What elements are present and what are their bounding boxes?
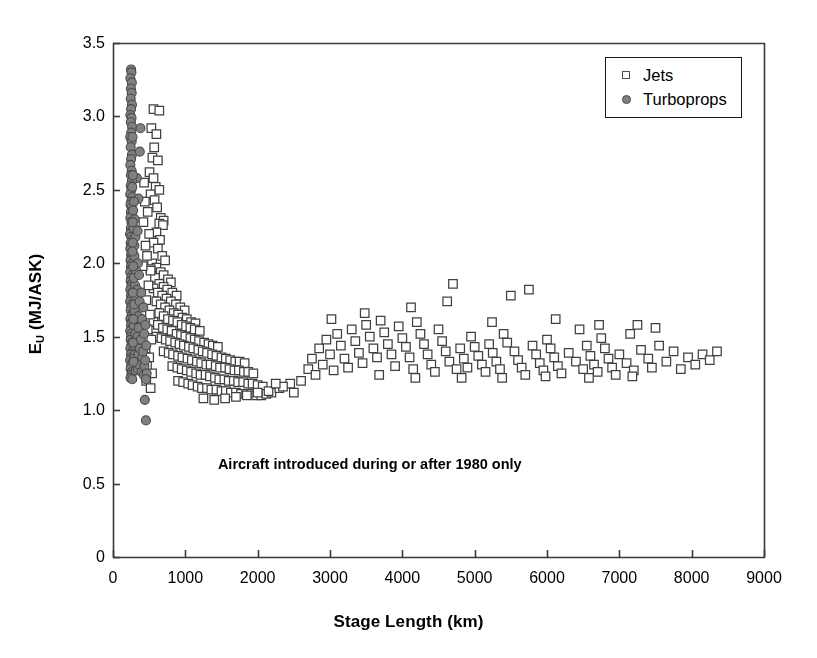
y-axis-title-unit: (MJ/ASK): [26, 254, 45, 335]
chart-legend: Jets Turboprops: [605, 57, 742, 118]
x-tick-label: 6000: [529, 569, 565, 587]
x-tick-label: 0: [109, 569, 118, 587]
scatter-chart-figure: 010002000300040005000600070008000900000.…: [0, 0, 817, 658]
y-axis-title-base: E: [26, 343, 45, 354]
y-tick-label: 2.5: [63, 181, 105, 199]
chart-annotation: Aircraft introduced during or after 1980…: [218, 456, 522, 472]
legend-label-turboprops: Turboprops: [637, 90, 727, 109]
legend-item-turboprops[interactable]: Turboprops: [615, 87, 727, 111]
x-tick-label: 3000: [312, 569, 348, 587]
y-tick-label: 1.5: [63, 328, 105, 346]
y-tick-label: 1.0: [63, 401, 105, 419]
y-tick-label: 2.0: [63, 254, 105, 272]
y-tick-label: 3.0: [63, 107, 105, 125]
filled-circle-icon: [615, 95, 637, 104]
x-tick-label: 5000: [457, 569, 493, 587]
open-square-icon: [615, 71, 637, 79]
x-tick-label: 1000: [168, 569, 204, 587]
x-axis-title: Stage Length (km): [0, 612, 817, 632]
y-axis-title-wrapper: EU (MJ/ASK): [26, 4, 50, 604]
x-tick-label: 7000: [602, 569, 638, 587]
x-tick-label: 4000: [385, 569, 421, 587]
y-axis-title-subscript: U: [34, 335, 46, 343]
x-tick-label: 8000: [674, 569, 710, 587]
x-tick-label: 2000: [240, 569, 276, 587]
y-axis-title: EU (MJ/ASK): [26, 254, 46, 355]
legend-label-jets: Jets: [637, 66, 673, 85]
y-tick-label: 3.5: [63, 34, 105, 52]
legend-item-jets[interactable]: Jets: [615, 63, 727, 87]
y-tick-label: 0.5: [63, 475, 105, 493]
y-tick-label: 0: [63, 548, 105, 566]
x-tick-label: 9000: [746, 569, 782, 587]
